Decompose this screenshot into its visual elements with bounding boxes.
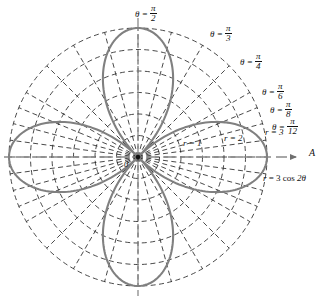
r-3-label: r = 3 — [265, 128, 284, 137]
origin-dot — [136, 155, 141, 160]
theta-pi-6-label: θ = π6 — [262, 82, 284, 101]
r-1-label: r = 1 — [183, 139, 202, 148]
curve-equation-label: r = 3 cos 2θ — [263, 174, 306, 183]
origin-label: 0 — [124, 160, 128, 169]
polar-plot-figure — [0, 0, 329, 302]
axis-label-A: A — [309, 148, 315, 158]
theta-pi-2-label: θ = π2 — [135, 4, 157, 23]
r-2-label: r = 2 — [224, 134, 243, 143]
theta-pi-4-label: θ = π4 — [240, 52, 262, 71]
theta-pi-3-label: θ = π3 — [210, 24, 232, 43]
